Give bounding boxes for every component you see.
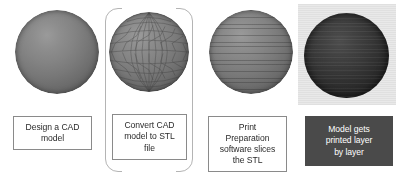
photo-grain [298,4,396,105]
printed-model-photo [298,4,396,105]
caption-line: model [41,133,64,144]
caption-line: model to STL [124,131,175,142]
workflow-step-3: Print Preparation software slices the ST… [200,0,300,184]
caption-line: Preparation [226,133,270,144]
stl-sphere-rim [109,12,189,92]
cad-sphere-rim [15,10,99,94]
workflow-step-4: Model gets printed layer by layer [296,0,405,184]
stl-mesh-sphere [109,12,189,92]
caption-design-cad-model: Design a CAD model [13,116,92,150]
sliced-sphere-rim [209,10,293,94]
bracket-bottom-gap [122,166,176,178]
caption-line: the STL [233,155,263,166]
caption-print-preparation: Print Preparation software slices the ST… [208,116,287,172]
caption-line: printed layer [326,135,373,146]
workflow-step-2: Convert CAD model to STL file [100,0,200,184]
figure-3d-printing-workflow: Design a CAD model [0,0,405,184]
caption-line: software slices [220,144,276,155]
sliced-sphere [209,10,293,94]
caption-line: by layer [334,147,364,158]
caption-line: Convert CAD [124,120,174,131]
workflow-step-1: Design a CAD model [0,0,100,184]
caption-line: Design a CAD [26,122,80,133]
cad-sphere [15,10,99,94]
caption-line: Model gets [328,124,370,135]
caption-model-printed-layer-by-layer: Model gets printed layer by layer [305,116,393,166]
caption-line: Print [239,122,256,133]
caption-line: file [144,143,155,154]
caption-convert-cad-to-stl: Convert CAD model to STL file [112,114,187,160]
